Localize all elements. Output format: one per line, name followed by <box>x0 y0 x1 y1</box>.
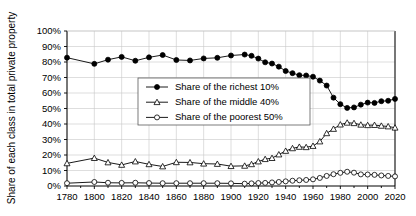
data-point-marker <box>160 181 165 186</box>
data-point-marker <box>358 172 363 177</box>
chart-container: 0%10%20%30%40%50%60%70%80%90%100% 178018… <box>0 0 416 216</box>
data-point-marker <box>242 52 247 57</box>
data-point-marker <box>379 99 384 104</box>
data-point-marker <box>386 173 391 178</box>
data-point-marker <box>106 57 111 62</box>
data-point-marker <box>132 159 138 164</box>
data-point-marker <box>263 180 268 185</box>
data-point-marker <box>324 173 329 178</box>
chart-legend: Share of the richest 10%Share of the mid… <box>138 78 310 125</box>
data-point-marker <box>365 172 370 177</box>
data-point-marker <box>249 53 254 58</box>
data-point-marker <box>133 180 138 185</box>
x-tick-label: 1960 <box>302 191 323 202</box>
data-point-marker <box>269 155 275 160</box>
data-point-marker <box>215 55 220 60</box>
legend-label: Share of the poorest 50% <box>175 111 283 122</box>
data-point-marker <box>270 61 275 66</box>
data-point-marker <box>160 53 165 58</box>
data-point-marker <box>155 85 160 90</box>
x-axis-tick-labels: 1780180018201840186018801900192019401960… <box>56 186 405 202</box>
x-tick-label: 1820 <box>111 191 132 202</box>
data-point-marker <box>133 58 138 63</box>
data-point-marker <box>276 179 281 184</box>
x-tick-label: 1940 <box>275 191 296 202</box>
data-point-marker <box>215 181 220 186</box>
data-point-marker <box>174 181 179 186</box>
y-tick-label: 20% <box>42 149 62 160</box>
data-point-marker <box>119 180 124 185</box>
data-point-marker <box>147 181 152 186</box>
data-point-marker <box>119 54 124 59</box>
y-tick-label: 100% <box>37 25 62 36</box>
data-point-marker <box>188 181 193 186</box>
x-tick-label: 1880 <box>193 191 214 202</box>
data-point-marker <box>338 102 343 107</box>
data-point-marker <box>317 175 322 180</box>
data-point-marker <box>229 181 234 186</box>
x-tick-label: 1780 <box>56 191 77 202</box>
data-point-marker <box>229 53 234 58</box>
data-point-marker <box>345 169 350 174</box>
data-point-marker <box>290 71 295 76</box>
data-point-marker <box>310 143 316 148</box>
data-point-marker <box>92 61 97 66</box>
y-tick-label: 30% <box>42 134 62 145</box>
data-point-marker <box>379 173 384 178</box>
data-point-marker <box>304 73 309 78</box>
data-point-marker <box>372 100 377 105</box>
data-point-marker <box>317 78 322 83</box>
data-point-marker <box>304 177 309 182</box>
data-point-marker <box>290 178 295 183</box>
data-point-marker <box>372 172 377 177</box>
data-point-marker <box>256 56 261 61</box>
x-tick-label: 1920 <box>248 191 269 202</box>
data-point-marker <box>276 64 281 69</box>
x-tick-label: 1800 <box>84 191 105 202</box>
y-tick-label: 50% <box>42 103 62 114</box>
data-point-marker <box>297 73 302 78</box>
x-tick-label: 1980 <box>330 191 351 202</box>
data-point-marker <box>393 174 398 179</box>
data-point-marker <box>65 181 70 186</box>
data-point-marker <box>249 161 255 166</box>
x-tick-label: 1860 <box>166 191 187 202</box>
y-axis-title: Share of each class in total private pro… <box>6 12 17 204</box>
data-point-marker <box>331 172 336 177</box>
share-of-private-property-line-chart: 0%10%20%30%40%50%60%70%80%90%100% 178018… <box>0 0 416 216</box>
y-tick-label: 40% <box>42 118 62 129</box>
data-point-marker <box>263 60 268 65</box>
data-point-marker <box>311 74 316 79</box>
data-point-marker <box>188 58 193 63</box>
x-tick-label: 1840 <box>138 191 159 202</box>
y-tick-label: 70% <box>42 72 62 83</box>
data-point-marker <box>270 180 275 185</box>
data-point-marker <box>155 115 160 120</box>
data-point-marker <box>283 148 289 153</box>
y-tick-label: 0% <box>47 180 61 191</box>
data-point-marker <box>256 181 261 186</box>
x-tick-label: 2000 <box>357 191 378 202</box>
data-point-marker <box>331 95 336 100</box>
data-point-marker <box>249 181 254 186</box>
data-point-marker <box>65 55 70 60</box>
data-point-marker <box>297 178 302 183</box>
y-tick-label: 10% <box>42 165 62 176</box>
data-point-marker <box>106 180 111 185</box>
x-tick-label: 2020 <box>384 191 405 202</box>
data-point-marker <box>283 68 288 73</box>
data-point-marker <box>242 181 247 186</box>
data-point-marker <box>358 102 363 107</box>
data-point-marker <box>147 55 152 60</box>
y-tick-label: 90% <box>42 41 62 52</box>
y-axis-tick-labels: 0%10%20%30%40%50%60%70%80%90%100% <box>37 25 67 191</box>
data-point-marker <box>324 130 330 135</box>
data-point-marker <box>201 56 206 61</box>
data-point-marker <box>345 105 350 110</box>
legend-label: Share of the richest 10% <box>175 81 280 92</box>
y-tick-label: 80% <box>42 56 62 67</box>
data-point-marker <box>92 179 97 184</box>
data-point-marker <box>276 152 282 157</box>
data-point-marker <box>283 179 288 184</box>
data-point-marker <box>201 181 206 186</box>
